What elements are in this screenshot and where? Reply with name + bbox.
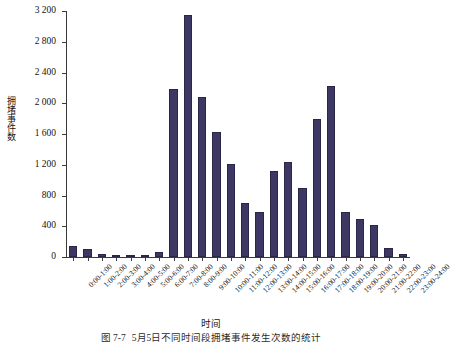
y-axis-tick: 800: [62, 196, 66, 197]
x-axis-title: 时间: [0, 316, 422, 330]
bar: [298, 188, 307, 257]
y-axis-tick: 2 400: [62, 73, 66, 74]
bar: [341, 212, 350, 257]
bar: [227, 164, 236, 257]
y-axis-tick: 1 200: [62, 165, 66, 166]
bar: [112, 255, 121, 257]
caption-text: 5月5日不同时间段拥堵事件发生次数的统计: [132, 333, 322, 343]
y-axis-tick: 1 600: [62, 134, 66, 135]
bar: [370, 225, 379, 257]
bar: [255, 212, 264, 257]
y-axis-tick: 2 000: [62, 103, 66, 104]
y-axis-tick-label: 400: [42, 220, 56, 231]
bar: [98, 254, 107, 257]
y-axis-tick-label: 1 200: [35, 159, 56, 170]
y-axis-tick-label: 2 000: [35, 97, 56, 108]
y-axis-tick-label: 2 800: [35, 36, 56, 47]
figure-caption: 图 7-75月5日不同时间段拥堵事件发生次数的统计: [0, 332, 422, 344]
bar: [141, 255, 150, 257]
y-axis-tick-label: 0: [51, 251, 56, 262]
bar: [284, 162, 293, 257]
bar: [356, 219, 365, 257]
bar: [212, 132, 221, 257]
bar: [270, 171, 279, 257]
y-axis-tick-label: 800: [42, 190, 56, 201]
bar: [327, 86, 336, 257]
bar: [184, 15, 193, 257]
x-axis-tick-labels: 0:00-1:001:00-2:002:00-3:003:00-4:004:00…: [66, 258, 410, 318]
y-axis-tick: 400: [62, 226, 66, 227]
bar: [169, 89, 178, 257]
bar: [313, 119, 322, 257]
bar: [155, 252, 164, 257]
y-axis-title: 拥堵事件数: [2, 96, 16, 141]
bar: [69, 246, 78, 257]
y-axis-tick: 3 200: [62, 11, 66, 12]
bar: [126, 255, 135, 257]
bar: [83, 249, 92, 257]
bar: [384, 248, 393, 257]
y-axis-tick-label: 2 400: [35, 67, 56, 78]
bar: [198, 97, 207, 257]
caption-number: 图 7-7: [101, 333, 126, 343]
y-axis-tick-label: 1 600: [35, 128, 56, 139]
bar: [399, 254, 408, 257]
y-axis-tick: 2 800: [62, 42, 66, 43]
y-axis-tick-label: 3 200: [35, 5, 56, 16]
bar: [241, 203, 250, 257]
y-axis-line: [66, 11, 67, 258]
plot-area: 04008001 2001 6002 0002 4002 8003 200: [66, 11, 410, 258]
